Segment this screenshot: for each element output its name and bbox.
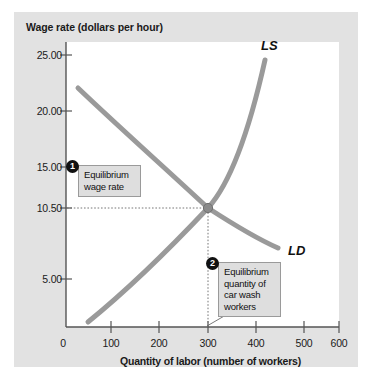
x-tick-label-300: 300 — [188, 337, 228, 349]
equilibrium-point-marker — [203, 203, 212, 212]
annotation-1-badge: 1 — [66, 160, 79, 173]
x-tick-label-600: 600 — [319, 337, 359, 349]
annotation-1-line-1: Equilibrium — [84, 169, 135, 181]
x-tick-label-0: 0 — [43, 337, 83, 349]
y-tick-label-10-50: 10.50 — [18, 202, 62, 214]
annotation-1-line-2: wage rate — [84, 181, 135, 193]
x-tick-label-200: 200 — [139, 337, 179, 349]
x-tick-label-500: 500 — [284, 337, 324, 349]
labor-demand-curve-label: LD — [288, 243, 305, 258]
x-tick-label-400: 400 — [236, 337, 276, 349]
annotation-2-line-2: quantity of — [224, 278, 275, 290]
x-axis-title: Quantity of labor (number of workers) — [120, 355, 301, 367]
x-tick-label-100: 100 — [91, 337, 131, 349]
y-tick-label-15: 15.00 — [18, 161, 62, 173]
y-tick-label-5: 5.00 — [18, 273, 62, 285]
annotation-2-line-1: Equilibrium — [224, 266, 275, 278]
annotation-2-line-4: workers — [224, 301, 275, 313]
annotation-callout-equilibrium-quantity: Equilibrium quantity of car wash workers — [218, 262, 281, 317]
y-tick-label-20: 20.00 — [18, 105, 62, 117]
y-tick-label-25: 25.00 — [18, 49, 62, 61]
labor-supply-curve-label: LS — [261, 38, 278, 53]
annotation-2-line-3: car wash — [224, 289, 275, 301]
annotation-callout-equilibrium-wage: Equilibrium wage rate — [78, 165, 141, 197]
annotation-2-badge: 2 — [206, 257, 219, 270]
labor-market-figure: Wage rate (dollars per hour) 25.00 20. — [0, 0, 372, 380]
